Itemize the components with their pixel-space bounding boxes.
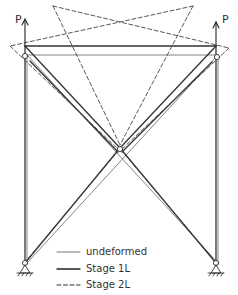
legend-label-stage-2l: Stage 2L	[86, 279, 130, 291]
legend-label-undeformed: undeformed	[86, 246, 147, 258]
pin-support-left	[17, 265, 33, 276]
pin-support-right	[208, 265, 224, 276]
joint-top-left	[22, 53, 27, 58]
stage-2l-shape	[10, 6, 229, 261]
load-arrow-right	[213, 22, 219, 46]
stage-1l-shape	[25, 46, 216, 263]
load-label-left: P	[15, 14, 22, 26]
joint-center	[117, 146, 122, 151]
frame-diagram: P P undeformed Stage 1L Stage 2L	[0, 0, 238, 295]
legend-label-stage-1l: Stage 1L	[86, 263, 130, 275]
joint-top-right	[214, 54, 219, 59]
load-label-right: P	[222, 14, 229, 26]
